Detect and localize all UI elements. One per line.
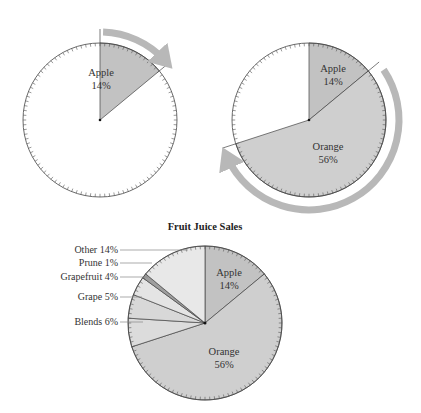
step-2-pie: Apple14%Orange56% (222, 43, 399, 210)
fruit-juice-sales-pie: Apple14%Orange56%Blends 6%Grape 5%Grapef… (61, 244, 282, 400)
side-label-grapefruit: Grapefruit 4% (61, 271, 118, 282)
side-label-other: Other 14% (74, 244, 118, 255)
slice-label: Apple (216, 267, 242, 278)
measure-guide-line (368, 62, 379, 71)
slice-percent: 14% (323, 76, 343, 87)
center-dot (99, 119, 102, 122)
center-dot (204, 322, 207, 325)
slice-percent: 14% (91, 80, 111, 91)
slice-percent: 14% (219, 280, 239, 291)
pie-construction-diagram: Apple14% Apple14%Orange56% Fruit Juice S… (0, 0, 421, 413)
center-dot (308, 119, 311, 122)
slice-label: Apple (88, 67, 114, 78)
slice-label: Apple (320, 63, 346, 74)
slice-percent: 56% (318, 154, 338, 165)
slice-percent: 56% (214, 359, 234, 370)
measure-guide-line (159, 62, 170, 71)
measure-guide-line (222, 144, 235, 148)
step-1-pie: Apple14% (23, 29, 177, 197)
chart-title: Fruit Juice Sales (168, 221, 243, 232)
slice-label: Orange (313, 141, 344, 152)
side-label-prune: Prune 1% (79, 257, 118, 268)
side-label-grape: Grape 5% (78, 291, 118, 302)
slice-label: Orange (209, 346, 240, 357)
side-label-blends: Blends 6% (74, 316, 118, 327)
